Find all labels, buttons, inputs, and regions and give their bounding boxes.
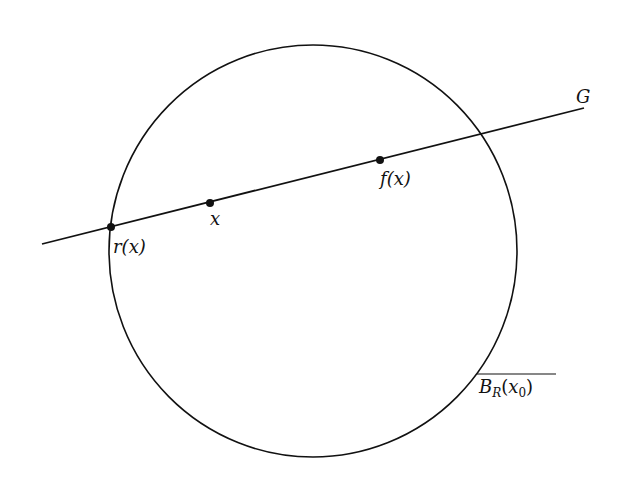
- point-r-x: [107, 223, 115, 231]
- label-ball-R: R: [492, 386, 501, 400]
- diagram-svg: [0, 0, 620, 485]
- label-closed-ball: BR(x0): [479, 378, 533, 396]
- closed-ball-circle: [109, 45, 517, 457]
- label-r-x: r(x): [113, 238, 146, 256]
- label-ball-x: x: [508, 376, 518, 397]
- point-x: [206, 199, 214, 207]
- label-G: G: [576, 88, 590, 106]
- label-ball-0: 0: [518, 386, 526, 400]
- label-f-x: f(x): [380, 170, 411, 188]
- label-x: x: [210, 210, 220, 228]
- diagram-canvas: G r(x) x f(x) BR(x0): [0, 0, 620, 485]
- label-ball-B: B: [479, 376, 492, 397]
- label-ball-close: ): [526, 376, 533, 397]
- point-f-x: [376, 156, 384, 164]
